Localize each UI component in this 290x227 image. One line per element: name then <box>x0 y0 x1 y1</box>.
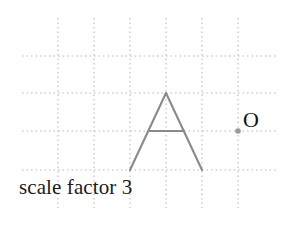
text-layer: scale factor 3 O <box>0 0 290 227</box>
figure-canvas: scale factor 3 O <box>0 0 290 227</box>
point-label-o: O <box>243 108 259 132</box>
scale-factor-label: scale factor 3 <box>19 176 132 199</box>
